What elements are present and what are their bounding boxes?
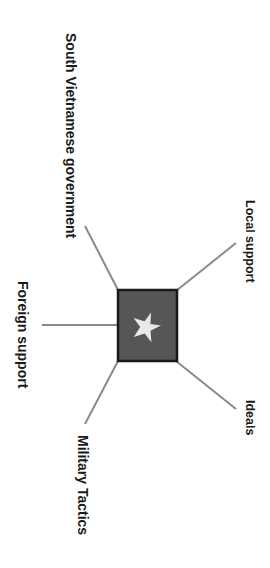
connector-south-vietnamese-government xyxy=(85,226,118,290)
connector-local-support xyxy=(176,243,236,291)
label-military-tactics: Military Tactics xyxy=(76,435,90,535)
label-south-vietnamese-government: South Vietnamese government xyxy=(64,33,78,238)
label-foreign-support: Foreign support xyxy=(16,281,30,388)
connector-ideals xyxy=(176,361,236,409)
label-ideals: Ideals xyxy=(243,400,256,435)
label-local-support: Local support xyxy=(243,200,256,283)
connector-military-tactics xyxy=(85,361,118,424)
connector-lines xyxy=(0,0,270,568)
center-flag xyxy=(118,290,177,361)
